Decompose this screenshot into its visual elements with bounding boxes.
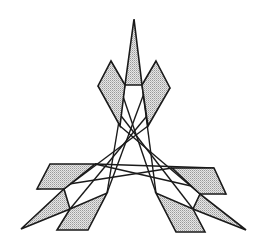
left-upper-parallelogram [37, 164, 95, 189]
right-upper-parallelogram [172, 168, 226, 194]
top-spike [125, 19, 142, 85]
star-diagram [0, 0, 257, 248]
top-right-diamond [142, 61, 170, 126]
top-left-diamond [98, 61, 125, 126]
